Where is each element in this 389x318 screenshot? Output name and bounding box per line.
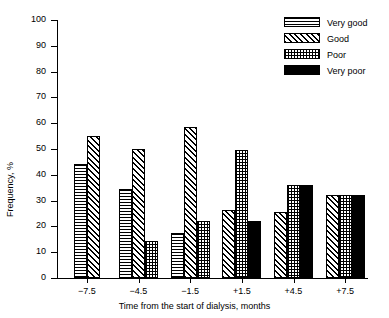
bar (222, 210, 235, 278)
bar (352, 195, 365, 278)
bar (274, 212, 287, 278)
bar (287, 185, 300, 278)
chart-legend: Very goodGoodPoorVery poor (284, 16, 389, 80)
y-tick-label: 70 (14, 92, 46, 101)
y-axis-label: Frequency, % (6, 142, 15, 238)
y-tick-label: 30 (14, 196, 46, 205)
bar (197, 221, 210, 278)
bar (87, 136, 100, 278)
x-tick-label: +4.5 (269, 287, 319, 296)
bar (171, 233, 184, 278)
y-tick-label: 60 (14, 118, 46, 127)
legend-swatch (284, 49, 320, 59)
bar (300, 185, 313, 278)
y-tick-mark (51, 278, 57, 279)
legend-item: Very good (284, 16, 389, 30)
bar (339, 195, 352, 278)
bar (145, 241, 158, 278)
y-tick-label: 90 (14, 41, 46, 50)
legend-label: Very good (327, 18, 368, 28)
bar (119, 189, 132, 278)
bar (132, 149, 145, 278)
x-tick-label: +7.5 (320, 287, 370, 296)
x-tick-label: −7.5 (62, 287, 112, 296)
x-tick-mark (242, 278, 243, 283)
bar (235, 150, 248, 278)
legend-label: Poor (327, 50, 346, 60)
y-tick-label: 10 (14, 247, 46, 256)
x-tick-label: +1.5 (217, 287, 267, 296)
bar (184, 127, 197, 278)
legend-swatch (284, 65, 320, 75)
x-tick-mark (294, 278, 295, 283)
x-axis-line (57, 278, 368, 279)
x-tick-mark (87, 278, 88, 283)
legend-swatch (284, 17, 320, 27)
bar-chart-figure: 0102030405060708090100 −7.5−4.5−1.5+1.5+… (0, 0, 389, 318)
x-tick-mark (190, 278, 191, 283)
bar (326, 195, 339, 278)
legend-item: Poor (284, 48, 389, 62)
legend-label: Very poor (327, 66, 366, 76)
y-tick-label: 100 (14, 15, 46, 24)
y-tick-label: 50 (14, 144, 46, 153)
y-tick-label: 40 (14, 170, 46, 179)
x-tick-mark (345, 278, 346, 283)
y-tick-label: 0 (14, 273, 46, 282)
x-axis-label: Time from the start of dialysis, months (0, 301, 389, 311)
x-tick-label: −4.5 (114, 287, 164, 296)
x-tick-mark (139, 278, 140, 283)
bar (248, 221, 261, 278)
legend-label: Good (327, 34, 349, 44)
bar (74, 164, 87, 278)
y-tick-label: 20 (14, 221, 46, 230)
legend-swatch (284, 33, 320, 43)
y-tick-label: 80 (14, 67, 46, 76)
x-tick-label: −1.5 (165, 287, 215, 296)
legend-item: Very poor (284, 64, 389, 78)
legend-item: Good (284, 32, 389, 46)
